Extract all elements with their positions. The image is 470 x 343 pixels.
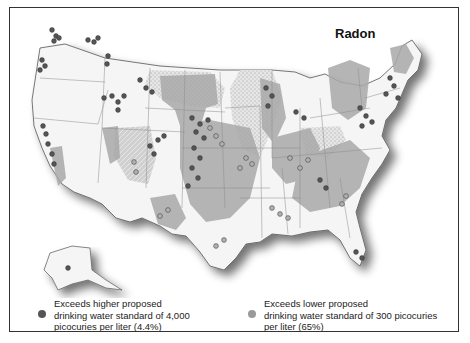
us-radon-map bbox=[10, 8, 459, 298]
legend-item-low: Exceeds lower proposed drinking water st… bbox=[248, 298, 437, 332]
light-dot-icon bbox=[248, 310, 256, 318]
legend-label-high: Exceeds higher proposed drinking water s… bbox=[54, 298, 190, 332]
legend-label-low: Exceeds lower proposed drinking water st… bbox=[264, 298, 437, 332]
map-title: Radon bbox=[335, 26, 375, 41]
dark-dot-icon bbox=[38, 310, 46, 318]
legend: Exceeds higher proposed drinking water s… bbox=[10, 298, 459, 332]
map-frame: Radon Exceeds higher proposed drinking w… bbox=[9, 7, 459, 332]
legend-item-high: Exceeds higher proposed drinking water s… bbox=[38, 298, 190, 332]
alaska bbox=[44, 246, 122, 290]
